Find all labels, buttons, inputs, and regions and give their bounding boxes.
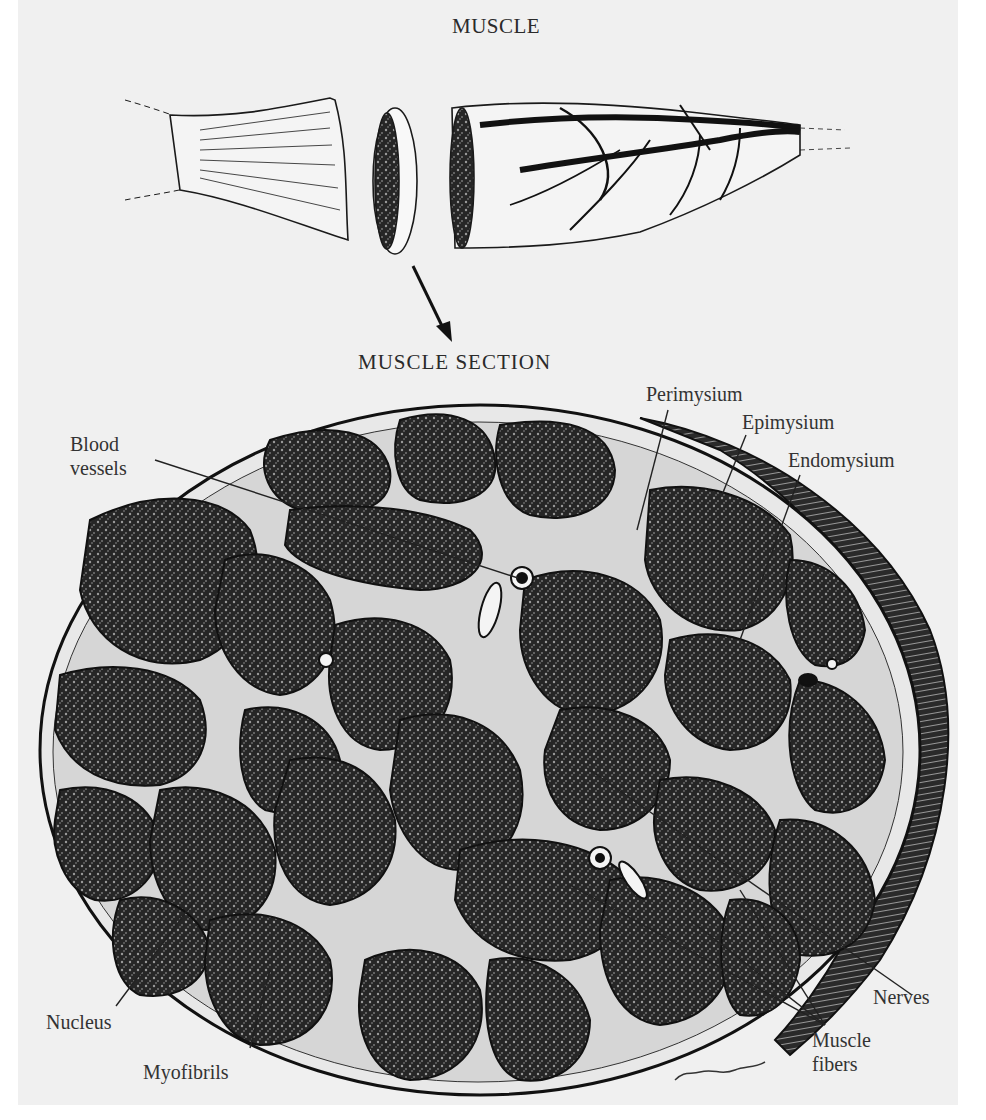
artist-signature <box>675 1062 765 1080</box>
arrow-icon <box>413 266 452 342</box>
label-nucleus: Nucleus <box>46 1010 112 1034</box>
label-blood-vessels-line1: Blood <box>70 432 127 456</box>
label-myofibrils: Myofibrils <box>143 1060 229 1084</box>
whole-muscle-drawing <box>125 98 850 254</box>
label-blood-vessels: Blood vessels <box>70 432 127 480</box>
label-nerves: Nerves <box>873 985 930 1009</box>
label-muscle-fibers-line2: fibers <box>812 1052 871 1076</box>
muscle-title: MUSCLE <box>452 14 540 39</box>
label-epimysium: Epimysium <box>742 410 834 434</box>
muscle-section-title: MUSCLE SECTION <box>358 350 551 375</box>
label-endomysium: Endomysium <box>788 448 895 472</box>
muscle-cross-section <box>40 405 948 1095</box>
label-blood-vessels-line2: vessels <box>70 456 127 480</box>
label-perimysium: Perimysium <box>646 382 743 406</box>
label-muscle-fibers: Muscle fibers <box>812 1028 871 1076</box>
label-muscle-fibers-line1: Muscle <box>812 1028 871 1052</box>
muscle-illustration <box>0 0 986 1120</box>
